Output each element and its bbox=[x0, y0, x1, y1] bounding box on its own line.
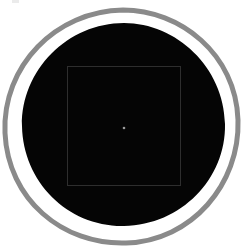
black-disc bbox=[22, 23, 225, 226]
center-point-marker bbox=[123, 127, 126, 130]
figure-canvas bbox=[0, 0, 247, 252]
target-figure-svg bbox=[0, 0, 247, 252]
top-left-speck bbox=[12, 0, 19, 3]
